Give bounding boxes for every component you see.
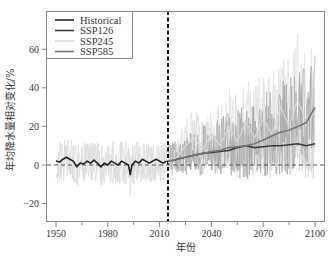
x-axis-title: 年份 (176, 241, 196, 253)
y-tick-label: 0 (34, 160, 39, 171)
x-tick-label: 2010 (150, 228, 170, 239)
x-tick-label: 2040 (201, 228, 221, 239)
x-tick-label: 2100 (305, 228, 325, 239)
y-axis-title: 年均降水量相对变化/% (4, 69, 16, 172)
x-tick-label: 2070 (253, 228, 273, 239)
precipitation-change-chart: −200204060 195019802010204020702100 年份 年… (0, 0, 335, 259)
x-tick-label: 1950 (46, 228, 66, 239)
legend-label: SSP245 (80, 36, 113, 47)
x-axis: 195019802010204020702100 (46, 222, 325, 239)
legend-label: SSP126 (80, 25, 113, 36)
legend-label: Historical (80, 15, 121, 26)
y-tick-label: 20 (29, 121, 39, 132)
y-tick-label: 40 (29, 82, 39, 93)
legend: HistoricalSSP126SSP245SSP585 (47, 12, 133, 59)
legend-label: SSP585 (80, 46, 113, 57)
y-tick-label: 60 (29, 44, 39, 55)
y-axis: −200204060 (23, 44, 47, 209)
x-tick-label: 1980 (98, 228, 118, 239)
y-tick-label: −20 (23, 198, 39, 209)
